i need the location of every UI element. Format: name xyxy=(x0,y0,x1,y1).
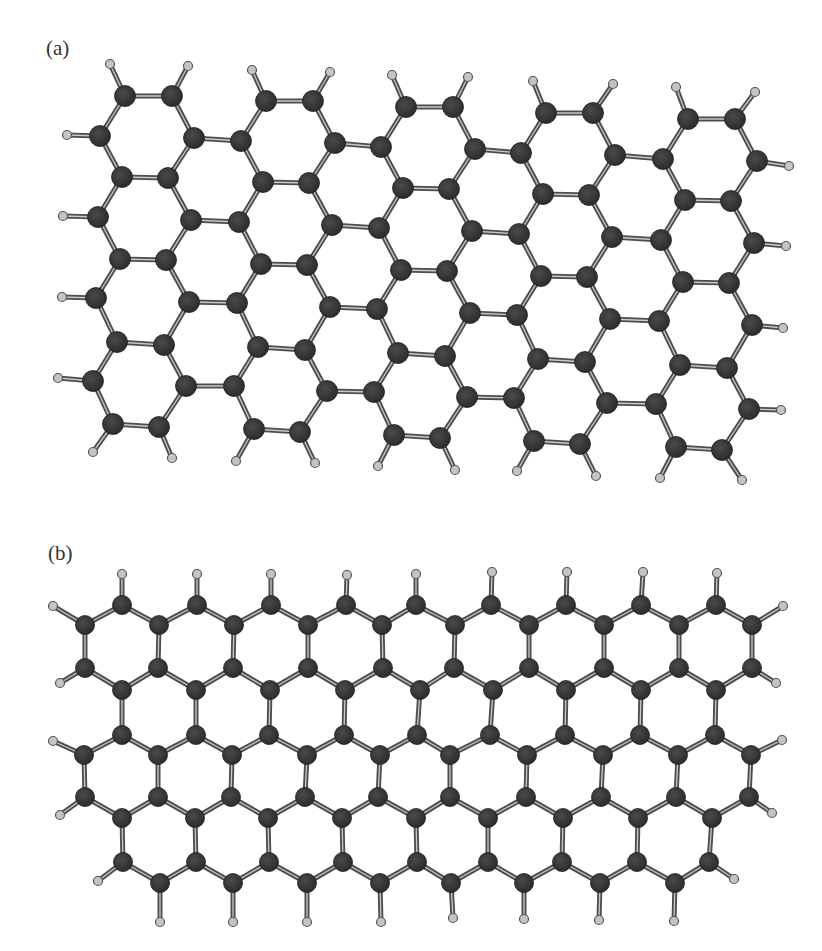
carbon-atom xyxy=(179,292,200,313)
carbon-atom xyxy=(435,346,456,367)
hydrogen-atom xyxy=(412,570,421,579)
carbon-atom xyxy=(158,168,179,189)
carbon-atom xyxy=(225,616,244,635)
carbon-atom xyxy=(110,249,131,270)
carbon-atom xyxy=(482,596,501,615)
carbon-atom xyxy=(670,355,691,376)
carbon-atom xyxy=(575,352,596,373)
carbon-atom xyxy=(149,746,168,765)
carbon-atom xyxy=(184,128,205,149)
carbon-atom xyxy=(336,681,355,700)
carbon-atom xyxy=(520,659,539,678)
carbon-atom xyxy=(299,173,320,194)
carbon-atom xyxy=(481,726,500,745)
hydrogen-atom xyxy=(529,77,538,86)
carbon-atom xyxy=(446,616,465,635)
hydrogen-atom xyxy=(738,476,747,485)
carbon-atom xyxy=(739,399,760,420)
molecular-structure-figure xyxy=(0,0,822,951)
carbon-atom xyxy=(187,726,206,745)
carbon-atom xyxy=(86,288,107,309)
hydrogen-atom xyxy=(449,914,458,923)
carbon-atom xyxy=(115,86,136,107)
carbon-atom xyxy=(224,376,245,397)
carbon-atom xyxy=(224,874,243,893)
carbon-atom xyxy=(743,659,762,678)
hydrogen-atom xyxy=(778,736,787,745)
carbon-atom xyxy=(557,596,576,615)
hydrogen-atom xyxy=(58,293,67,302)
carbon-atom xyxy=(83,371,104,392)
hydrogen-atom xyxy=(639,568,648,577)
carbon-atom xyxy=(261,681,280,700)
carbon-atom xyxy=(371,874,390,893)
carbon-atom xyxy=(369,218,390,239)
carbon-atom xyxy=(653,149,674,170)
carbon-atom xyxy=(591,874,610,893)
carbon-atom xyxy=(602,227,623,248)
carbon-atom xyxy=(162,86,183,107)
carbon-atom xyxy=(515,874,534,893)
carbon-atom xyxy=(703,809,722,828)
carbon-atom xyxy=(706,726,725,745)
hydrogen-atom xyxy=(656,474,665,483)
carbon-atom xyxy=(437,261,458,282)
carbon-atom xyxy=(253,172,274,193)
carbon-atom xyxy=(244,419,265,440)
carbon-atom xyxy=(632,596,651,615)
carbon-atom xyxy=(457,387,478,408)
carbon-atom xyxy=(509,224,530,245)
hydrogen-atom xyxy=(63,131,72,140)
hydrogen-atom xyxy=(779,602,788,611)
hydrogen-atom xyxy=(488,568,497,577)
carbon-atom xyxy=(114,853,133,872)
carbon-atom xyxy=(393,178,414,199)
carbon-atom xyxy=(408,726,427,745)
hydrogen-atom xyxy=(751,88,760,97)
carbon-atom xyxy=(337,596,356,615)
carbon-atom xyxy=(743,616,762,635)
nanoribbon-structure-b xyxy=(49,568,788,927)
carbon-atom xyxy=(536,103,557,124)
hydrogen-atom xyxy=(388,71,397,80)
carbon-atom xyxy=(260,853,279,872)
hydrogen-atom xyxy=(232,457,241,466)
carbon-atom xyxy=(670,616,689,635)
carbon-atom xyxy=(156,250,177,271)
carbon-atom xyxy=(651,230,672,251)
carbon-atom xyxy=(594,746,613,765)
carbon-atom xyxy=(511,143,532,164)
carbon-atom xyxy=(443,97,464,118)
hydrogen-atom xyxy=(592,472,601,481)
hydrogen-atom xyxy=(768,809,777,818)
hydrogen-atom xyxy=(229,918,238,927)
carbon-atom xyxy=(712,440,733,461)
carbon-atom xyxy=(531,266,552,287)
carbon-atom xyxy=(669,746,688,765)
carbon-atom xyxy=(224,659,243,678)
carbon-atom xyxy=(670,659,689,678)
hydrogen-atom xyxy=(782,242,791,251)
hydrogen-atom xyxy=(118,570,127,579)
carbon-atom xyxy=(299,659,318,678)
carbon-atom xyxy=(742,746,761,765)
carbon-atom xyxy=(388,343,409,364)
carbon-atom xyxy=(631,726,650,745)
hydrogen-atom xyxy=(89,448,98,457)
carbon-atom xyxy=(188,596,207,615)
carbon-atom xyxy=(666,437,687,458)
carbon-atom xyxy=(507,305,528,326)
hydrogen-atom xyxy=(49,737,58,746)
carbon-atom xyxy=(517,788,536,807)
carbon-atom xyxy=(553,853,572,872)
hydrogen-atom xyxy=(343,571,352,580)
hydrogen-atom xyxy=(156,918,165,927)
carbon-atom xyxy=(632,681,651,700)
nanoribbon-structure-a xyxy=(54,60,794,485)
carbon-atom xyxy=(113,596,132,615)
carbon-atom xyxy=(335,726,354,745)
carbon-atom xyxy=(107,332,128,353)
carbon-atom xyxy=(441,788,460,807)
carbon-atom xyxy=(298,874,317,893)
carbon-atom xyxy=(187,681,206,700)
